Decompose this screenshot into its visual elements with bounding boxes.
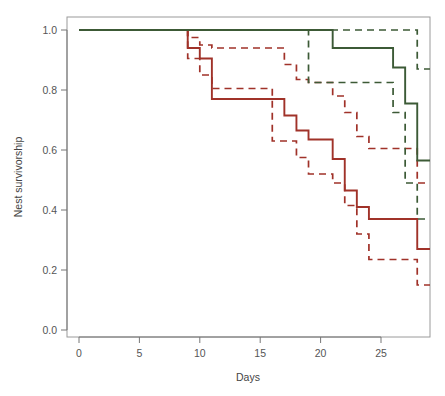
y-tick-label: 0.2: [42, 264, 57, 276]
y-axis-title: Nest survivorship: [12, 137, 24, 218]
x-tick-label: 15: [254, 347, 266, 359]
y-axis: 0.00.20.40.60.81.0: [42, 24, 67, 336]
x-tick-label: 5: [136, 347, 142, 359]
x-tick-label: 20: [315, 347, 327, 359]
y-tick-label: 1.0: [42, 24, 57, 36]
y-tick-label: 0.4: [42, 204, 57, 216]
plot-border: [67, 17, 430, 337]
x-axis: 0510152025: [76, 337, 387, 359]
x-tick-label: 10: [194, 347, 206, 359]
x-axis-title: Days: [236, 371, 260, 383]
series-line: [79, 30, 430, 285]
series-line: [79, 30, 430, 183]
series-line: [79, 30, 430, 69]
y-tick-label: 0.8: [42, 84, 57, 96]
x-tick-label: 0: [76, 347, 82, 359]
y-tick-label: 0.6: [42, 144, 57, 156]
data-series-group: [79, 30, 430, 285]
y-tick-label: 0.0: [42, 324, 57, 336]
series-line: [79, 30, 430, 161]
survival-chart: 0.00.20.40.60.81.0 0510152025 Days Nest …: [0, 0, 445, 396]
x-tick-label: 25: [375, 347, 387, 359]
plot-frame: [67, 17, 430, 337]
series-line: [79, 30, 430, 249]
plot-canvas: 0.00.20.40.60.81.0 0510152025 Days Nest …: [0, 0, 445, 396]
series-line: [79, 30, 430, 219]
